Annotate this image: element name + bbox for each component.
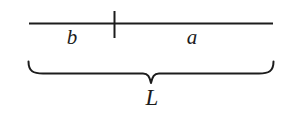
total-length-label-L: L [132,86,172,109]
segment-label-a: a [172,27,212,48]
segment-length-diagram: b a L [0,0,287,118]
underbrace-path [29,62,274,84]
segment-label-b: b [52,27,92,48]
